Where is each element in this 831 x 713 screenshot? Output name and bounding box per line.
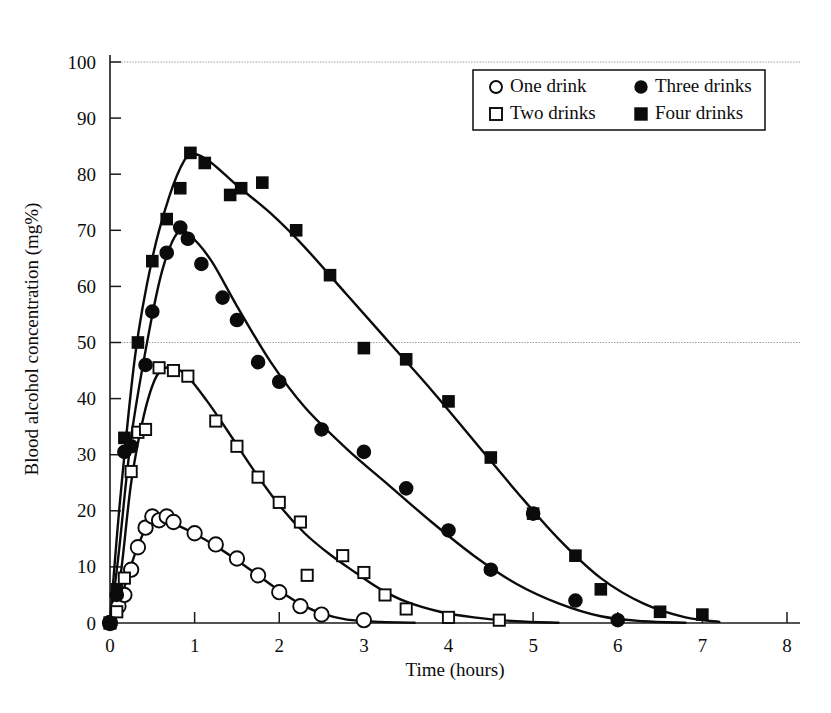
data-point-two-drinks <box>274 497 285 508</box>
data-point-two-drinks <box>231 441 242 452</box>
x-tick-label-5: 5 <box>528 635 538 656</box>
y-tick-label-90: 90 <box>77 108 96 129</box>
data-point-two-drinks <box>401 603 412 614</box>
data-point-three-drinks <box>611 614 624 627</box>
data-point-four-drinks <box>132 337 143 348</box>
data-point-one-drink <box>131 540 145 554</box>
data-point-two-drinks <box>168 365 179 376</box>
data-point-four-drinks <box>185 147 196 158</box>
x-axis-title: Time (hours) <box>405 659 504 681</box>
x-tick-label-6: 6 <box>613 635 623 656</box>
legend-swatch-two-drinks <box>490 108 502 120</box>
legend-marker-two-drinks <box>490 108 502 120</box>
legend-marker-four-drinks <box>635 108 647 120</box>
y-tick-label-60: 60 <box>77 276 96 297</box>
data-point-four-drinks <box>236 183 247 194</box>
y-tick-label-50: 50 <box>77 332 96 353</box>
data-point-two-drinks <box>111 606 122 617</box>
data-point-four-drinks <box>401 354 412 365</box>
chart-container: 0102030405060708090100 012345678 Time (h… <box>0 0 831 713</box>
data-point-four-drinks <box>119 432 130 443</box>
x-tick-label-4: 4 <box>444 635 454 656</box>
data-point-three-drinks <box>273 375 286 388</box>
data-point-two-drinks <box>153 362 164 373</box>
data-point-one-drink <box>357 613 371 627</box>
data-point-four-drinks <box>175 183 186 194</box>
data-point-three-drinks <box>146 305 159 318</box>
data-point-four-drinks <box>161 213 172 224</box>
y-tick-label-80: 80 <box>77 164 96 185</box>
legend-label-one-drink: One drink <box>510 75 587 96</box>
data-point-four-drinks <box>104 617 115 628</box>
data-point-three-drinks <box>357 445 370 458</box>
data-point-one-drink <box>209 537 223 551</box>
x-tick-label-8: 8 <box>782 635 792 656</box>
y-tick-label-40: 40 <box>77 388 96 409</box>
x-tick-label-3: 3 <box>359 635 369 656</box>
x-tick-label-2: 2 <box>275 635 285 656</box>
y-tick-label-0: 0 <box>87 613 97 634</box>
y-tick-label-100: 100 <box>68 52 97 73</box>
data-point-four-drinks <box>358 343 369 354</box>
data-point-three-drinks <box>139 358 152 371</box>
x-tick-label-7: 7 <box>698 635 708 656</box>
data-point-two-drinks <box>302 570 313 581</box>
legend-swatch-one-drink <box>490 81 502 93</box>
data-point-two-drinks <box>182 371 193 382</box>
data-point-one-drink <box>187 526 201 540</box>
data-point-three-drinks <box>400 482 413 495</box>
data-point-two-drinks <box>358 567 369 578</box>
data-point-two-drinks <box>494 615 505 626</box>
data-point-three-drinks <box>181 232 194 245</box>
data-point-three-drinks <box>195 257 208 270</box>
data-point-four-drinks <box>324 270 335 281</box>
data-point-four-drinks <box>443 396 454 407</box>
data-point-four-drinks <box>595 584 606 595</box>
data-point-one-drink <box>166 515 180 529</box>
x-tick-label-1: 1 <box>190 635 200 656</box>
data-point-two-drinks <box>337 550 348 561</box>
x-tick-label-0: 0 <box>105 635 115 656</box>
data-point-four-drinks <box>570 550 581 561</box>
data-point-one-drink <box>272 585 286 599</box>
data-point-four-drinks <box>257 177 268 188</box>
data-point-four-drinks <box>697 609 708 620</box>
data-point-two-drinks <box>443 612 454 623</box>
data-point-one-drink <box>293 599 307 613</box>
data-point-one-drink <box>251 568 265 582</box>
data-point-three-drinks <box>569 594 582 607</box>
data-point-two-drinks <box>210 415 221 426</box>
data-point-one-drink <box>314 607 328 621</box>
y-tick-label-20: 20 <box>77 500 96 521</box>
data-point-two-drinks <box>119 573 130 584</box>
y-tick-label-10: 10 <box>77 556 96 577</box>
data-point-four-drinks <box>654 606 665 617</box>
legend-label-two-drinks: Two drinks <box>510 102 596 123</box>
data-point-two-drinks <box>295 516 306 527</box>
data-point-two-drinks <box>126 466 137 477</box>
data-point-one-drink <box>230 551 244 565</box>
data-point-three-drinks <box>315 423 328 436</box>
data-point-four-drinks <box>291 225 302 236</box>
data-point-four-drinks <box>199 157 210 168</box>
y-tick-label-70: 70 <box>77 220 96 241</box>
legend-marker-one-drink <box>490 81 502 93</box>
data-point-three-drinks <box>160 246 173 259</box>
data-point-two-drinks <box>252 472 263 483</box>
data-point-four-drinks <box>485 452 496 463</box>
data-point-two-drinks <box>379 589 390 600</box>
legend: One drinkThree drinksTwo drinksFour drin… <box>473 70 765 130</box>
legend-label-four-drinks: Four drinks <box>655 102 743 123</box>
y-tick-label-30: 30 <box>77 444 96 465</box>
legend-marker-three-drinks <box>635 81 647 93</box>
data-point-four-drinks <box>111 584 122 595</box>
data-point-three-drinks <box>251 356 264 369</box>
legend-swatch-three-drinks <box>635 81 647 93</box>
data-point-three-drinks <box>484 563 497 576</box>
data-point-two-drinks <box>140 424 151 435</box>
data-point-four-drinks <box>225 189 236 200</box>
data-point-four-drinks <box>528 508 539 519</box>
data-point-three-drinks <box>442 524 455 537</box>
data-point-three-drinks <box>216 291 229 304</box>
data-point-four-drinks <box>147 256 158 267</box>
